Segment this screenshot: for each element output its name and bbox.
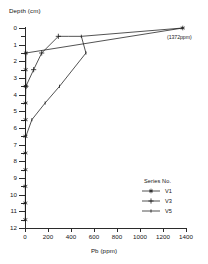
legend-item-v3: V3 <box>141 196 172 206</box>
plus-marker <box>141 196 161 206</box>
y-tick-label: 0 <box>0 25 17 31</box>
legend: Series No. V1V3V5 <box>141 178 172 216</box>
y-tick-label: 12 <box>0 225 17 231</box>
series-V5 <box>26 35 86 138</box>
y-tick-label: 6 <box>0 125 17 131</box>
legend-title: Series No. <box>144 178 172 184</box>
x-tick <box>48 228 49 232</box>
series-V1-surface-run <box>58 28 182 36</box>
y-tick-label: 2 <box>0 58 17 64</box>
x-tick-label: 1400 <box>173 234 199 240</box>
y-tick-label: 8 <box>0 158 17 164</box>
legend-item-label: V5 <box>165 208 172 214</box>
y-tick-label: 10 <box>0 192 17 198</box>
x-tick <box>117 228 118 232</box>
chart-figure: Depth (cm) 0123456789101112 020040060080… <box>0 0 208 264</box>
legend-item-v1: V1 <box>141 186 172 196</box>
line-marker <box>141 206 161 216</box>
y-tick-label: 5 <box>0 108 17 114</box>
x-tick <box>71 228 72 232</box>
y-tick-label: 1 <box>0 42 17 48</box>
legend-item-label: V3 <box>165 198 172 204</box>
legend-item-v5: V5 <box>141 206 172 216</box>
x-tick <box>25 228 26 232</box>
x-axis-label: Pb (ppm) <box>0 247 208 254</box>
x-tick <box>94 228 95 232</box>
asterisk-marker <box>141 186 161 196</box>
y-tick-label: 3 <box>0 75 17 81</box>
series-V3 <box>23 34 61 89</box>
y-axis-label: Depth (cm) <box>9 7 41 14</box>
legend-item-label: V1 <box>165 188 172 194</box>
y-tick-label: 7 <box>0 142 17 148</box>
y-tick-label: 9 <box>0 175 17 181</box>
y-tick-label: 11 <box>0 208 17 214</box>
y-tick-label: 4 <box>0 92 17 98</box>
offscale-annotation: (1372ppm) <box>167 34 192 40</box>
x-tick <box>163 228 164 232</box>
x-tick <box>140 228 141 232</box>
x-tick <box>186 228 187 232</box>
